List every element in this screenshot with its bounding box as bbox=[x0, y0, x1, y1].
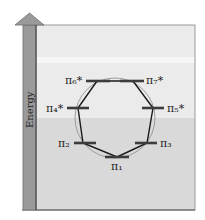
label-pi4: π₄* bbox=[46, 102, 64, 115]
energy-axis-label: Energy bbox=[24, 91, 35, 128]
mo-energy-diagram: Energy π₁ π₂ π₃ π₄* π₅* π₆* π₇* bbox=[0, 0, 205, 220]
label-pi7: π₇* bbox=[146, 74, 164, 87]
label-pi2: π₂ bbox=[58, 137, 70, 150]
label-pi1: π₁ bbox=[111, 160, 123, 173]
label-pi6: π₆* bbox=[65, 74, 83, 87]
label-pi5: π₅* bbox=[167, 102, 185, 115]
upper-highlight-band bbox=[36, 57, 195, 63]
label-pi3: π₃ bbox=[160, 137, 172, 150]
